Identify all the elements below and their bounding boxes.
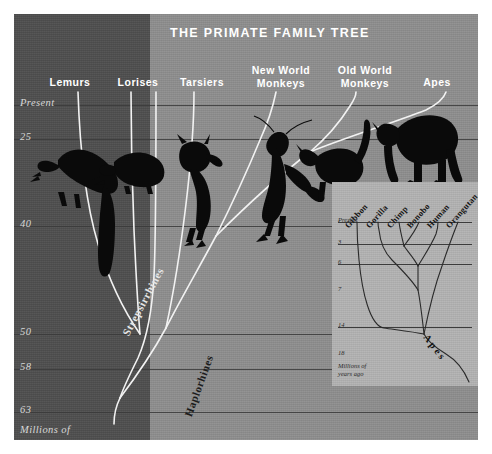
time-label-25: 25 [20, 131, 31, 143]
time-axis-unit-label: Millions of years ago [20, 424, 70, 440]
inset-time-14: 14 [338, 321, 345, 329]
inset-branch-orangutan [424, 222, 458, 334]
group-header-apes: Apes [406, 76, 468, 89]
branch-old-world-monkeys [310, 92, 356, 152]
inset-branch-chimp [399, 222, 404, 246]
inset-apes-label: Apes [421, 332, 449, 363]
branch-anthropoid-stem [166, 236, 216, 328]
inset-rule-14 [338, 327, 472, 328]
chart-frame: THE PRIMATE FAMILY TREE Lemurs Lorises T… [14, 14, 478, 440]
inset-rule-6 [338, 264, 472, 265]
inset-branch-gibbon [357, 222, 424, 334]
tarsier-silhouette [177, 134, 223, 248]
time-label-present: Present [20, 97, 55, 109]
branch-new-world-monkeys [216, 92, 276, 236]
new-world-monkey-silhouette [254, 116, 324, 244]
inset-time-18: 18 [338, 349, 345, 357]
inset-time-3: 3 [338, 238, 341, 246]
inset-branch-panin-stem [404, 246, 418, 266]
inset-time-6: 6 [338, 258, 341, 266]
time-label-63: 63 [20, 404, 31, 416]
branch-tarsiers [166, 92, 194, 328]
inset-branch-gorilla [378, 222, 418, 290]
primate-family-tree-figure: THE PRIMATE FAMILY TREE Lemurs Lorises T… [0, 0, 492, 454]
inset-time-7: 7 [338, 285, 341, 293]
time-label-40: 40 [20, 218, 31, 230]
inset-rule-3 [338, 244, 472, 245]
group-header-new-world-monkeys: New World Monkeys [238, 64, 324, 89]
grid-rule-63 [14, 412, 478, 413]
gorilla-silhouette [372, 115, 462, 186]
inset-time-present: Present [338, 216, 358, 224]
grid-rule-present [14, 105, 478, 106]
group-header-old-world-monkeys: Old World Monkeys [322, 64, 408, 89]
group-header-tarsiers: Tarsiers [162, 76, 242, 89]
time-label-50: 50 [20, 326, 31, 338]
ape-detail-inset: Gibbon Gorilla Chimp Bonobo Human Orangu… [332, 182, 478, 386]
page-title: THE PRIMATE FAMILY TREE [170, 26, 370, 40]
branch-catarrhine-stem [216, 152, 310, 236]
inset-time-unit-label: Millions of years ago [338, 362, 366, 378]
grid-rule-25 [14, 139, 478, 140]
clade-label-haplorhines: Haplorhines [182, 353, 215, 418]
time-label-58: 58 [20, 361, 31, 373]
branch-apes [310, 92, 446, 152]
